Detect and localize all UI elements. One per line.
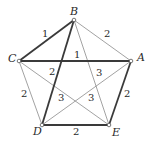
vertex-label-c: C xyxy=(8,52,17,65)
edge-weight-b-d: 2 xyxy=(49,66,55,77)
vertex-label-d: D xyxy=(32,125,42,138)
vertex-c xyxy=(17,59,21,63)
edge-b-c xyxy=(19,20,74,61)
edges xyxy=(19,20,131,125)
edge-weight-a-e: 2 xyxy=(124,88,130,99)
vertex-label-b: B xyxy=(69,5,78,18)
graph-svg: 1122323322 ABCDE xyxy=(0,0,153,145)
edge-weight-c-a: 1 xyxy=(74,49,80,60)
edge-weight-b-c: 1 xyxy=(42,28,48,39)
vertex-a xyxy=(129,59,133,63)
edge-weight-c-d: 2 xyxy=(21,88,27,99)
edge-weight-b-e: 3 xyxy=(96,67,102,78)
edge-weight-b-a: 2 xyxy=(104,28,110,39)
vertex-label-a: A xyxy=(136,51,145,64)
edge-weight-d-e: 2 xyxy=(73,126,79,137)
edge-weight-a-d: 3 xyxy=(88,92,94,103)
graph-diagram: 1122323322 ABCDE xyxy=(0,0,153,145)
vertex-b xyxy=(72,18,76,22)
edge-b-a xyxy=(74,20,131,61)
edge-weight-c-e: 3 xyxy=(58,92,64,103)
vertex-label-e: E xyxy=(111,126,120,139)
vertex-labels: ABCDE xyxy=(8,5,145,139)
vertex-e xyxy=(107,123,111,127)
edge-weight-labels: 1122323322 xyxy=(21,28,130,137)
